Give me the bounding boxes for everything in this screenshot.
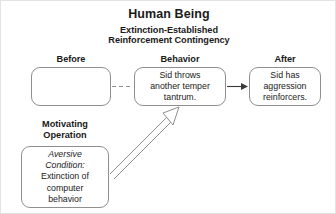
- motivating-operation-box: Aversive Condition: Extinction of comput…: [21, 146, 109, 208]
- behavior-box-line-3: tantrum.: [164, 92, 196, 103]
- block-arrowhead-mo-to-behavior: [163, 107, 179, 125]
- page-title: Human Being: [1, 7, 336, 21]
- contingency-diagram: Human Being Extinction-Established Reinf…: [0, 0, 336, 214]
- motivating-operation-italic-line-2: Condition:: [45, 160, 85, 171]
- column-label-before: Before: [31, 54, 111, 64]
- block-arrow-shaft: [110, 117, 171, 179]
- motivating-operation-line-3: Extinction of: [41, 171, 89, 182]
- page-subtitle-line-1: Extinction-Established: [1, 25, 336, 35]
- page-subtitle-line-2: Reinforcement Contingency: [1, 35, 336, 45]
- column-label-after: After: [249, 54, 321, 64]
- after-box-line-3: reinforcers.: [263, 92, 307, 103]
- before-box: [31, 67, 111, 106]
- motivating-operation-label-line-1: Motivating: [21, 119, 109, 130]
- page-subtitle: Extinction-Established Reinforcement Con…: [1, 25, 336, 46]
- behavior-box-line-1: Sid throws: [159, 70, 200, 81]
- after-box-line-1: Sid has: [270, 70, 299, 81]
- after-box: Sid has aggression reinforcers.: [249, 67, 321, 106]
- motivating-operation-line-4: computer: [47, 183, 84, 194]
- motivating-operation-line-5: behavior: [48, 194, 82, 205]
- motivating-operation-italic-line-1: Aversive: [48, 149, 82, 160]
- motivating-operation-label: Motivating Operation: [21, 119, 109, 140]
- arrowhead-behavior-to-after: [241, 83, 248, 90]
- connector-mo-to-behavior: [110, 107, 179, 179]
- after-box-line-2: aggression: [263, 81, 306, 92]
- behavior-box-line-2: another temper: [150, 81, 210, 92]
- motivating-operation-label-line-2: Operation: [21, 130, 109, 141]
- column-label-behavior: Behavior: [134, 54, 226, 64]
- behavior-box: Sid throws another temper tantrum.: [134, 67, 226, 106]
